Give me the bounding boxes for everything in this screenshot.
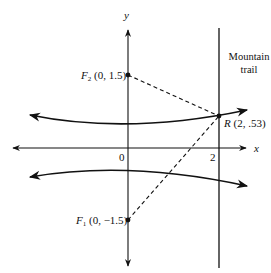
hyperbola-diagram — [0, 0, 271, 273]
point-r-name: R — [224, 117, 231, 129]
mountain-trail-line2: trail — [226, 63, 271, 76]
focus-f2-coords: (0, 1.5) — [94, 69, 126, 81]
focus-f2-point — [126, 73, 131, 78]
focus-f1-name: F — [76, 214, 83, 226]
dashed-line-f2-to-r — [128, 75, 219, 116]
mountain-trail-line1: Mountain — [226, 50, 271, 63]
x-axis-label: x — [254, 143, 259, 154]
point-r-coords: (2, .53) — [233, 117, 265, 129]
focus-f1-subscript: 1 — [83, 220, 87, 228]
x-tick-label-2: 2 — [210, 152, 216, 163]
origin-label: 0 — [119, 152, 125, 163]
point-r — [217, 114, 222, 119]
focus-f2-subscript: 2 — [88, 75, 92, 83]
focus-f1-label: F1 (0, −1.5) — [76, 215, 127, 228]
focus-f1-coords: (0, −1.5) — [89, 214, 127, 226]
y-axis-label: y — [124, 10, 129, 21]
focus-f2-label: F2 (0, 1.5) — [81, 70, 126, 83]
mountain-trail-label: Mountain trail — [226, 50, 271, 76]
point-r-label: R (2, .53) — [224, 118, 266, 129]
hyperbola-upper-branch — [30, 110, 247, 124]
hyperbola-lower-branch — [30, 170, 247, 186]
focus-f2-name: F — [81, 69, 88, 81]
dashed-line-f1-to-r — [128, 116, 219, 220]
